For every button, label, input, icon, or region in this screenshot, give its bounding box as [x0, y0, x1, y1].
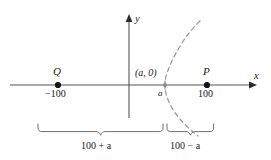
- figure-container: y x Q −100 P 100 (a, 0) a 100 + a 100 − …: [0, 0, 271, 160]
- y-axis-label: y: [135, 14, 140, 25]
- point-p-value: 100: [198, 89, 213, 99]
- y-axis: [126, 14, 133, 118]
- point-q-value: −100: [45, 89, 66, 99]
- point-a-value: a: [158, 89, 163, 98]
- left-brace-shape: [38, 124, 163, 135]
- point-a-label: (a, 0): [135, 68, 157, 78]
- point-p-label: P: [203, 66, 210, 77]
- left-brace-label: 100 + a: [81, 141, 111, 151]
- point-q-label: Q: [53, 66, 61, 77]
- x-axis-label: x: [254, 71, 259, 82]
- right-brace-shape: [167, 124, 214, 135]
- right-brace-label: 100 − a: [170, 141, 200, 151]
- hyperbola-branch-curve: [165, 21, 200, 136]
- point-a-marker: [163, 81, 167, 90]
